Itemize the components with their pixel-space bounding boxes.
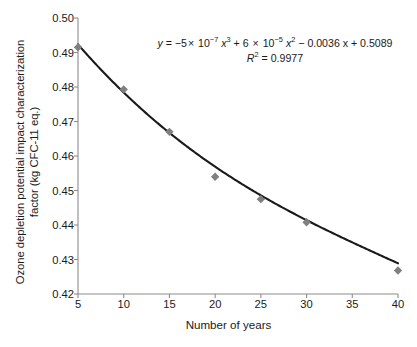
data-point-marker — [74, 43, 82, 51]
data-point-marker — [394, 266, 402, 274]
data-point-marker — [211, 173, 219, 181]
trendline-curve — [78, 44, 398, 263]
axis-ticks — [74, 18, 398, 298]
axis-lines — [78, 18, 398, 294]
data-point-markers — [74, 43, 402, 275]
plot-area — [0, 0, 417, 347]
data-point-marker — [120, 85, 128, 93]
chart-figure: Ozone depletion potential impact charact… — [0, 0, 417, 347]
